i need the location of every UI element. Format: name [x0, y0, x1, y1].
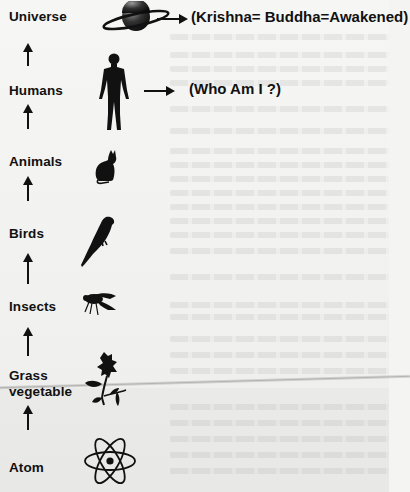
humans-note: (Who Am I ?): [189, 80, 281, 97]
atom-icon: [82, 433, 138, 489]
bleed-through-line: [170, 352, 389, 358]
bleed-through-line: [170, 106, 389, 112]
level-label-humans: Humans: [9, 83, 63, 99]
bleed-through-line: [170, 274, 389, 280]
bleed-through-line: [170, 52, 389, 58]
level-label-grass-vegetable: Grass vegetable: [9, 368, 72, 400]
bleed-through-line: [170, 190, 389, 196]
right-arrow: [157, 18, 181, 20]
bleed-through-line: [170, 204, 389, 210]
bleed-through-line: [170, 336, 389, 342]
up-arrow: [27, 260, 29, 284]
bleed-through-line: [170, 314, 389, 320]
flower-plant-icon: [82, 350, 132, 412]
up-arrow: [27, 111, 29, 129]
bleed-through-line: [170, 148, 389, 154]
bleed-through-line: [170, 232, 389, 238]
bleed-through-line: [170, 162, 389, 168]
level-label-line2: vegetable: [9, 384, 72, 400]
parrot-icon: [78, 214, 118, 268]
bleed-through-line: [170, 218, 389, 224]
fly-icon: [80, 290, 120, 320]
level-label-insects: Insects: [9, 299, 56, 315]
page-fold-shade: [0, 388, 389, 492]
level-label-atom: Atom: [9, 460, 44, 476]
bleed-through-line: [170, 368, 389, 374]
up-arrow: [27, 334, 29, 356]
human-figure-icon: [96, 52, 132, 132]
up-arrow: [27, 412, 29, 430]
universe-note: (Krishna= Buddha=Awakened): [191, 8, 408, 25]
bleed-through-line: [170, 128, 389, 134]
bleed-through-line: [170, 248, 389, 254]
bleed-through-line: [170, 66, 389, 72]
level-label-birds: Birds: [9, 226, 44, 242]
right-arrow: [144, 90, 168, 92]
up-arrow: [27, 50, 29, 66]
bleed-through-line: [170, 302, 389, 308]
bleed-through-line: [170, 34, 389, 40]
level-label-animals: Animals: [9, 154, 62, 170]
level-label-universe: Universe: [9, 9, 67, 25]
level-label-line1: Grass: [9, 368, 72, 384]
bleed-through-line: [170, 176, 389, 182]
up-arrow: [27, 183, 29, 201]
cat-icon: [93, 148, 121, 186]
